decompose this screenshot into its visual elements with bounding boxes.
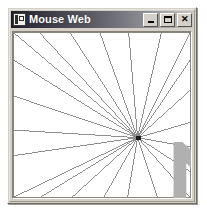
close-button[interactable]: ✕ [177, 13, 192, 27]
screenshot-root: Mouse Web ✕ [0, 0, 207, 213]
application-window-icon[interactable] [13, 13, 26, 26]
maximize-icon [161, 14, 174, 26]
maximize-button[interactable] [160, 13, 175, 27]
drawing-canvas[interactable] [12, 31, 192, 199]
minimize-button[interactable] [143, 13, 158, 27]
minimize-icon [144, 14, 157, 26]
window-title: Mouse Web [29, 13, 139, 26]
application-window: Mouse Web ✕ [7, 7, 197, 204]
titlebar[interactable]: Mouse Web ✕ [11, 11, 193, 28]
mouse-web-lines [13, 32, 191, 198]
close-icon: ✕ [178, 14, 191, 26]
window-controls: ✕ [143, 13, 192, 27]
